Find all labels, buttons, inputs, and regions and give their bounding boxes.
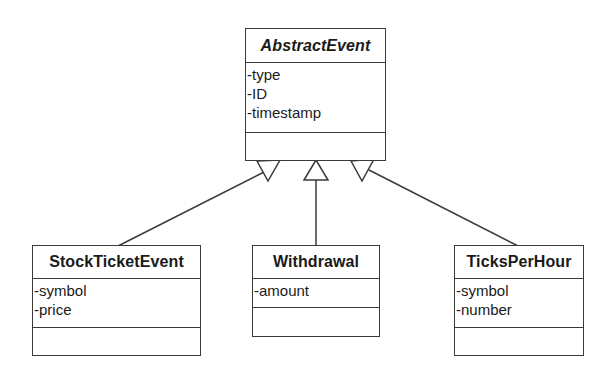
class-abstract-event[interactable]: AbstractEvent -type -ID -timestamp [245,28,386,161]
class-attributes: -amount [253,279,379,308]
attribute: -symbol [34,281,200,300]
class-name: Withdrawal [253,246,379,279]
class-name: AbstractEvent [246,29,385,63]
edge-stock-to-abstract [118,172,264,246]
edge-ticks-to-abstract [369,170,518,246]
class-name: StockTicketEvent [33,246,200,279]
attribute: -price [34,300,200,319]
class-attributes: -type -ID -timestamp [246,63,385,133]
class-name: TicksPerHour [455,246,583,279]
attribute: -symbol [456,281,583,300]
class-operations [33,328,200,355]
class-attributes: -symbol -number [455,279,583,328]
class-attributes: -symbol -price [33,279,200,328]
class-operations [246,133,385,160]
class-ticks-per-hour[interactable]: TicksPerHour -symbol -number [454,245,584,356]
class-operations [253,308,379,336]
attribute: -timestamp [247,103,385,122]
class-stock-ticket-event[interactable]: StockTicketEvent -symbol -price [32,245,201,356]
class-operations [455,328,583,355]
generalization-triangle-icon [257,160,280,181]
attribute: -amount [254,281,379,300]
generalization-triangle-icon [304,160,328,180]
class-withdrawal[interactable]: Withdrawal -amount [252,245,380,337]
attribute: -type [247,65,385,84]
attribute: -number [456,300,583,319]
attribute: -ID [247,84,385,103]
